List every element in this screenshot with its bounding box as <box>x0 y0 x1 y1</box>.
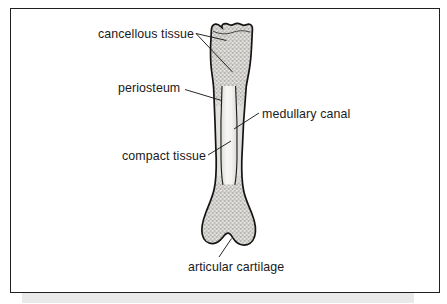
bone-illustration <box>0 0 447 304</box>
label-medullary-canal: medullary canal <box>262 108 350 120</box>
label-periosteum: periosteum <box>118 82 180 94</box>
label-compact-tissue: compact tissue <box>122 150 206 162</box>
medullary-canal-region <box>221 86 237 185</box>
leader-articular <box>219 239 232 258</box>
bone-anatomy-figure: cancellous tissue periosteum medullary c… <box>0 0 447 304</box>
label-cancellous-tissue: cancellous tissue <box>98 28 194 40</box>
label-articular-cartilage: articular cartilage <box>188 261 284 273</box>
